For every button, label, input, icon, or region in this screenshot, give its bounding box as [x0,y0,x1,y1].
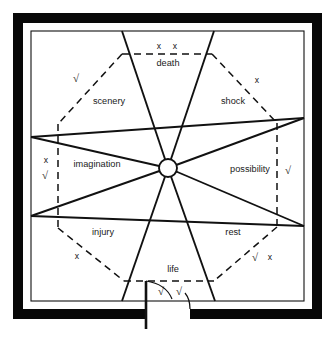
mark-life-2: √ [176,285,183,297]
zone-label-scenery: scenery [93,96,126,106]
mark-death-1: x [157,41,162,51]
dashed-bottom-left [58,228,124,281]
wall-top [13,13,322,23]
zone-label-death: death [157,58,180,68]
mark-possibility-1: √ [285,164,292,176]
wall-right [312,13,322,319]
spoke-left-lower [31,168,168,216]
mark-imagination-1: x [44,155,49,165]
center-hub [159,159,177,177]
entrance-door [146,281,190,329]
mark-rest-1: √ [252,251,259,263]
diagram-canvas: death scenery shock imagination possibil… [0,0,334,343]
zone-label-injury: injury [92,227,114,237]
mark-imagination-2: √ [42,169,49,181]
mark-rest-2: x [268,252,273,262]
dashed-top-right [212,54,277,123]
wall-left [13,13,23,319]
zone-label-shock: shock [221,96,245,106]
mark-injury-1: x [75,251,80,261]
ring-edge-left-upper [31,118,304,137]
dashed-top-left [58,54,122,124]
wall-bottom-left [13,309,146,319]
spoke-up-left [122,31,168,168]
zone-label-possibility: possibility [230,164,270,174]
spoke-up-right [168,31,214,168]
ring-edge-left-lower [31,216,304,226]
zone-label-life: life [167,264,179,274]
zone-label-rest: rest [225,227,241,237]
zone-label-imagination: imagination [74,159,121,169]
mark-scenery-1: √ [73,72,80,84]
mark-shock-1: x [255,75,260,85]
wall-bottom-right [190,309,322,319]
mark-death-2: x [173,41,178,51]
spoke-right-lower [168,168,304,226]
radial-room-plan: death scenery shock imagination possibil… [0,0,334,343]
mark-life-1: √ [158,285,165,297]
